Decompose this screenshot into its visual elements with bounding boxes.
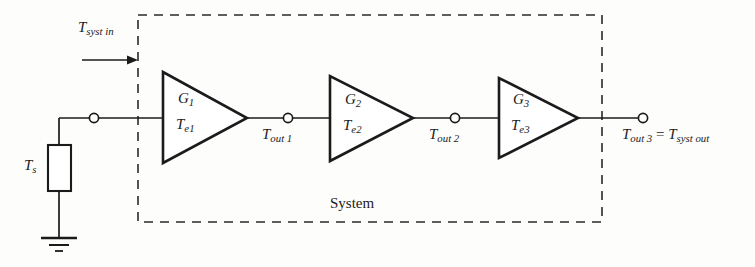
amplifier-3-temperature-label: Te3: [511, 118, 530, 133]
system-output-label: Tout 3 = Tsyst out: [622, 127, 709, 142]
stage-1-output-label: Tout 1: [262, 127, 292, 142]
amplifier-1-gain-label: G1: [178, 91, 194, 106]
stage-2-output-label: Tout 2: [429, 127, 459, 142]
ground-icon: [41, 238, 77, 251]
amplifier-3-gain-label: G3: [513, 92, 529, 107]
output-node-circle: [638, 113, 647, 122]
tout2-node-circle: [450, 113, 459, 122]
source-resistor: [48, 145, 71, 191]
amplifier-2-gain-label: G2: [345, 92, 361, 107]
source-temperature-label: Ts: [24, 158, 37, 173]
source-node-circle: [89, 113, 98, 122]
input-arrow-icon: [82, 56, 138, 65]
diagram-canvas: Tsyst in Ts G1 Te1 G2 Te2 G3 Te3 Tout 1 …: [0, 0, 755, 267]
system-boundary-label: System: [330, 196, 374, 211]
amplifier-1-temperature-label: Te1: [176, 117, 195, 132]
system-input-label: Tsyst in: [78, 20, 114, 35]
amplifier-2-temperature-label: Te2: [343, 118, 362, 133]
tout1-node-circle: [283, 113, 292, 122]
